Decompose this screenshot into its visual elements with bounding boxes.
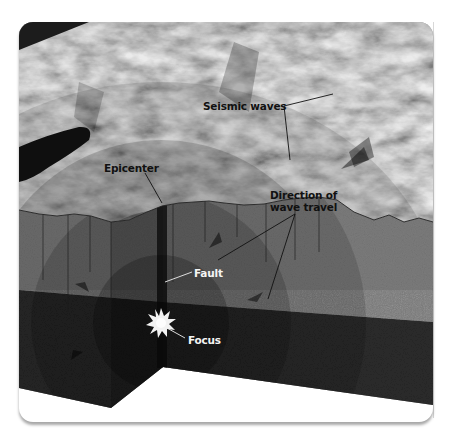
page-edge-rule <box>433 22 434 418</box>
label-direction-line1: Direction of <box>270 189 337 201</box>
label-epicenter: Epicenter <box>104 162 159 174</box>
label-seismic-waves: Seismic waves <box>203 100 286 112</box>
label-fault: Fault <box>194 267 223 279</box>
label-direction-line2: wave travel <box>270 201 337 213</box>
label-focus: Focus <box>188 334 221 346</box>
earthquake-illustration <box>19 22 433 422</box>
figure-card: Seismic waves Epicenter Direction of wav… <box>19 22 433 422</box>
